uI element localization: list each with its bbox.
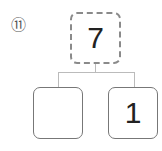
connector-bar <box>58 72 135 73</box>
part-box-blank[interactable] <box>33 87 83 139</box>
whole-box: 7 <box>70 12 121 64</box>
connector-left <box>58 72 59 87</box>
problem-number: ⑪ <box>11 13 26 34</box>
connector-right <box>134 72 135 87</box>
part-box-given: 1 <box>108 87 158 139</box>
